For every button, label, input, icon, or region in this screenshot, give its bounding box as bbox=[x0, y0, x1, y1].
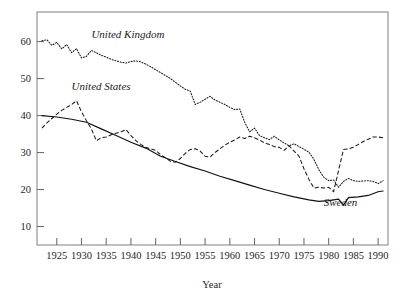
x-tick-label: 1985 bbox=[343, 250, 364, 261]
y-tick-label: 40 bbox=[21, 110, 32, 121]
series-lines bbox=[42, 40, 383, 205]
x-tick-label: 1935 bbox=[96, 250, 117, 261]
series-label: United Kingdom bbox=[91, 28, 164, 40]
x-tick-label: 1980 bbox=[318, 250, 339, 261]
x-tick-label: 1945 bbox=[145, 250, 166, 261]
y-tick-label: 60 bbox=[21, 36, 32, 47]
series-label: United States bbox=[72, 80, 131, 92]
series-label: Sweden bbox=[324, 196, 358, 208]
chart-svg: 102030405060 192519301935194019451950195… bbox=[0, 0, 404, 296]
x-tick-label: 1975 bbox=[293, 250, 314, 261]
y-tick-label: 20 bbox=[21, 184, 32, 195]
x-tick-label: 1960 bbox=[219, 250, 240, 261]
x-tick-label: 1955 bbox=[195, 250, 216, 261]
y-tick-label: 10 bbox=[21, 221, 32, 232]
y-axis-ticks bbox=[37, 42, 44, 227]
x-axis-tick-labels: 1925193019351940194519501955196019651970… bbox=[46, 250, 388, 261]
series-line-united-states bbox=[42, 101, 383, 192]
series-annotations: United KingdomUnited StatesSweden bbox=[72, 28, 358, 208]
x-tick-label: 1930 bbox=[71, 250, 92, 261]
x-tick-label: 1965 bbox=[244, 250, 265, 261]
series-line-united-kingdom bbox=[42, 40, 383, 188]
plot-frame bbox=[37, 12, 388, 245]
x-axis-ticks bbox=[57, 238, 378, 245]
x-axis-title: Year bbox=[202, 279, 222, 290]
plot-border bbox=[37, 12, 388, 245]
x-tick-label: 1950 bbox=[170, 250, 191, 261]
x-tick-label: 1990 bbox=[368, 250, 389, 261]
x-tick-label: 1970 bbox=[269, 250, 290, 261]
y-tick-label: 50 bbox=[21, 73, 32, 84]
chart-figure: 102030405060 192519301935194019451950195… bbox=[0, 0, 404, 296]
series-line-sweden bbox=[42, 116, 383, 206]
x-tick-label: 1940 bbox=[120, 250, 141, 261]
x-tick-label: 1925 bbox=[46, 250, 67, 261]
y-tick-label: 30 bbox=[21, 147, 32, 158]
y-axis-tick-labels: 102030405060 bbox=[21, 36, 32, 232]
